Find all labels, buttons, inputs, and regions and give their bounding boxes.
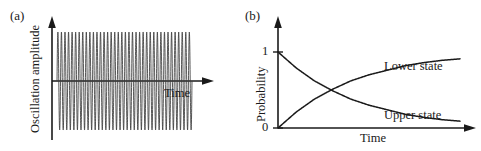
panel-b: (b) Probability 1 0 Time Lower state xyxy=(238,0,481,151)
panel-b-ytick-top-label: 1 xyxy=(262,44,268,59)
panel-a: (a) Oscillation amplitude Time xyxy=(0,0,238,151)
panel-b-ylabel: Probability xyxy=(254,66,269,122)
panel-a-ylabel: Oscillation amplitude xyxy=(28,25,43,133)
panel-a-xlabel: Time xyxy=(164,86,190,101)
y-axis-b xyxy=(274,16,282,128)
figure-container: (a) Oscillation amplitude Time (b) xyxy=(0,0,481,151)
label-lower-state: Lower state xyxy=(384,59,443,74)
y-axis-a xyxy=(48,16,56,140)
panel-b-ytick-bottom-label: 0 xyxy=(262,120,268,135)
panel-b-xlabel: Time xyxy=(360,131,386,146)
label-upper-state: Upper state xyxy=(384,108,441,123)
panel-b-plot xyxy=(238,0,481,151)
